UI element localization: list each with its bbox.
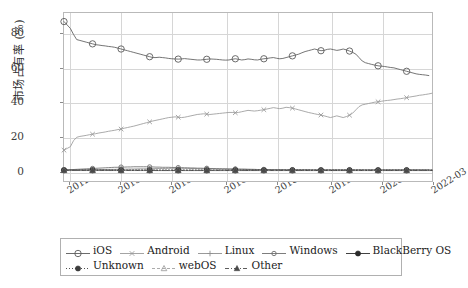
- legend-entry[interactable]: Unknown: [65, 259, 144, 271]
- y-tick-label: 60: [0, 62, 24, 73]
- legend-label: webOS: [179, 259, 217, 271]
- legend-marker-icon: [65, 244, 91, 255]
- legend-marker-icon: [261, 244, 287, 255]
- legend-entry[interactable]: BlackBerry OS: [345, 244, 452, 256]
- legend-label: Other: [252, 259, 283, 271]
- legend-row-2: UnknownwebOSOther: [65, 257, 397, 272]
- series-marker: [62, 148, 67, 153]
- legend-label: Unknown: [93, 259, 144, 271]
- y-tick-label: 0: [0, 166, 24, 177]
- legend-marker-icon: [345, 244, 371, 255]
- legend-marker-icon: [65, 259, 91, 270]
- legend-entry[interactable]: Windows: [261, 244, 337, 256]
- legend-row-1: iOSAndroidLinuxWindowsBlackBerry OS: [65, 242, 397, 257]
- y-tick-label: 80: [0, 27, 24, 38]
- series-marker: [347, 113, 352, 118]
- legend-marker-icon: [224, 259, 250, 270]
- legend-label: Android: [147, 244, 190, 256]
- series-line: [64, 93, 432, 150]
- x-tick-label: 2022-03: [429, 165, 468, 195]
- series-layer: [64, 13, 432, 181]
- legend-entry[interactable]: webOS: [151, 259, 217, 271]
- legend-marker-icon: [197, 244, 223, 255]
- legend-label: iOS: [93, 244, 112, 256]
- legend-label: Linux: [225, 244, 255, 256]
- legend-entry[interactable]: Other: [224, 259, 283, 271]
- legend-label: BlackBerry OS: [373, 244, 452, 256]
- plot-area: [63, 12, 433, 182]
- series-line: [64, 22, 429, 76]
- legend-marker-icon: [119, 244, 145, 255]
- y-tick-label: 40: [0, 96, 24, 107]
- legend-label: Windows: [289, 244, 337, 256]
- legend-entry[interactable]: iOS: [65, 244, 112, 256]
- y-tick-label: 20: [0, 131, 24, 142]
- legend-marker-icon: [151, 259, 177, 270]
- legend-entry[interactable]: Linux: [197, 244, 255, 256]
- legend-entry[interactable]: Android: [119, 244, 190, 256]
- chart-legend: iOSAndroidLinuxWindowsBlackBerry OS Unkn…: [60, 238, 402, 276]
